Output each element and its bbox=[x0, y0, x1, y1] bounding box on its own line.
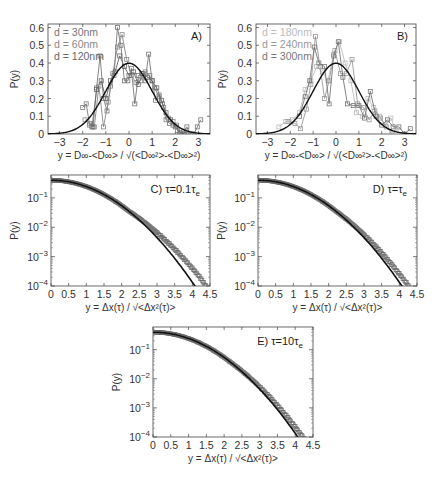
panel-label: E) τ=10τe bbox=[257, 335, 303, 350]
panel-e: 00.511.522.533.544.510−110−210−310−4P(y)… bbox=[111, 327, 320, 464]
panel-label: C) τ=0.1τe bbox=[150, 183, 200, 198]
x-axis-label: y = D∞-<D∞> / √(<D∞²>-<D∞>²) bbox=[265, 150, 408, 161]
y-tick-label: 0.2 bbox=[29, 93, 44, 105]
panel-label: A) bbox=[191, 30, 202, 42]
x-tick-label: 1 bbox=[356, 136, 362, 148]
x-tick-label: 4 bbox=[396, 288, 402, 300]
gaussian-curve bbox=[258, 180, 406, 293]
x-tick-label: −3 bbox=[54, 136, 66, 148]
y-tick-label: 10−3 bbox=[234, 249, 255, 263]
y-tick-label: 10−4 bbox=[129, 429, 150, 443]
y-tick-label: 10−1 bbox=[234, 190, 255, 204]
legend-entry: d = 180nm bbox=[262, 26, 312, 38]
data-series-line bbox=[299, 42, 410, 134]
plot-area bbox=[49, 178, 210, 292]
y-tick-label: 10−2 bbox=[234, 219, 255, 233]
x-tick-label: 0.5 bbox=[61, 288, 76, 300]
y-tick-label: 0.5 bbox=[29, 39, 44, 51]
y-tick-label: 0 bbox=[246, 128, 252, 140]
legend-entry: d = 240nm bbox=[262, 38, 312, 50]
y-tick-label: 10−4 bbox=[27, 278, 48, 292]
y-tick-label: 0.3 bbox=[29, 75, 44, 87]
x-tick-label: −1 bbox=[307, 136, 319, 148]
data-series-line bbox=[83, 28, 201, 135]
x-tick-label: 3 bbox=[154, 288, 160, 300]
legend-entry: d = 120nm bbox=[54, 50, 104, 62]
y-axis-label: P(y) bbox=[9, 221, 20, 239]
x-tick-label: 1 bbox=[290, 288, 296, 300]
panel-c: 00.511.522.533.544.510−110−210−310−4P(y)… bbox=[9, 175, 217, 313]
x-tick-label: 4.5 bbox=[203, 288, 218, 300]
x-axis-label: y = Δx(τ) / √<Δx²(τ)> bbox=[293, 302, 383, 313]
x-axis-label: y = Δx(τ) / √<Δx²(τ)> bbox=[86, 302, 176, 313]
gaussian-curve bbox=[51, 180, 199, 293]
x-tick-label: 0 bbox=[333, 136, 339, 148]
x-tick-label: 4.5 bbox=[410, 288, 425, 300]
plot-area bbox=[256, 178, 413, 293]
x-tick-label: 3 bbox=[361, 288, 367, 300]
x-axis-label: y = Δx(τ) / √<Δx²(τ)> bbox=[188, 453, 278, 464]
x-tick-label: −2 bbox=[284, 136, 296, 148]
x-tick-label: 1.5 bbox=[199, 439, 214, 451]
y-tick-label: 0.4 bbox=[29, 57, 44, 69]
legend-entry: d = 60nm bbox=[54, 38, 98, 50]
x-tick-label: −3 bbox=[261, 136, 273, 148]
panel-a: −3−2−1012300.10.20.30.40.50.6P(y)y = D∞-… bbox=[9, 22, 210, 161]
gaussian-curve bbox=[153, 332, 302, 444]
y-axis-label: P(y) bbox=[9, 70, 20, 88]
x-axis-label: y = D∞-<D∞> / √(<D∞²>-<D∞>²) bbox=[58, 150, 201, 161]
x-tick-label: 1 bbox=[83, 288, 89, 300]
panel-label: D) τ=τe bbox=[373, 183, 408, 198]
x-tick-label: 2 bbox=[221, 439, 227, 451]
x-tick-label: 2 bbox=[172, 136, 178, 148]
x-tick-label: 0 bbox=[126, 136, 132, 148]
x-tick-label: −2 bbox=[77, 136, 89, 148]
y-tick-label: 0.1 bbox=[29, 110, 44, 122]
x-tick-label: 3 bbox=[402, 136, 408, 148]
x-tick-label: 0 bbox=[255, 288, 261, 300]
y-tick-label: 0.2 bbox=[237, 93, 252, 105]
x-tick-label: 3.5 bbox=[270, 439, 285, 451]
y-tick-label: 10−3 bbox=[27, 249, 48, 263]
x-tick-label: 1 bbox=[149, 136, 155, 148]
x-tick-label: 1 bbox=[186, 439, 192, 451]
x-tick-label: 2.5 bbox=[132, 288, 147, 300]
y-tick-label: 0.3 bbox=[237, 75, 252, 87]
plot-area bbox=[151, 330, 306, 443]
x-tick-label: 1.5 bbox=[97, 288, 112, 300]
legend-entry: d = 300nm bbox=[262, 50, 312, 62]
figure-canvas: −3−2−1012300.10.20.30.40.50.6P(y)y = D∞-… bbox=[0, 0, 436, 484]
y-tick-label: 10−4 bbox=[234, 278, 255, 292]
y-tick-label: 10−1 bbox=[27, 190, 48, 204]
x-tick-label: 3 bbox=[257, 439, 263, 451]
x-tick-label: 2.5 bbox=[339, 288, 354, 300]
x-tick-label: −1 bbox=[100, 136, 112, 148]
y-axis-label: P(y) bbox=[217, 70, 228, 88]
y-tick-label: 0.5 bbox=[237, 39, 252, 51]
x-tick-label: 3 bbox=[196, 136, 202, 148]
y-tick-label: 10−2 bbox=[129, 371, 150, 385]
y-tick-label: 0.1 bbox=[237, 110, 252, 122]
x-tick-label: 3.5 bbox=[167, 288, 182, 300]
y-tick-label: 0 bbox=[38, 128, 44, 140]
panel-d: 00.511.522.533.544.510−110−210−310−4P(y)… bbox=[216, 175, 424, 313]
y-tick-label: 10−2 bbox=[27, 219, 48, 233]
y-tick-label: 0.4 bbox=[237, 57, 252, 69]
y-tick-label: 10−3 bbox=[129, 400, 150, 414]
x-tick-label: 0.5 bbox=[268, 288, 283, 300]
x-tick-label: 0.5 bbox=[163, 439, 178, 451]
y-tick-label: 10−1 bbox=[129, 342, 150, 356]
x-tick-label: 2 bbox=[119, 288, 125, 300]
panel-label: B) bbox=[397, 30, 408, 42]
x-tick-label: 3.5 bbox=[374, 288, 389, 300]
legend-entry: d = 30nm bbox=[54, 26, 98, 38]
gaussian-curve bbox=[256, 63, 416, 134]
y-tick-label: 0.6 bbox=[237, 22, 252, 34]
x-tick-label: 2 bbox=[379, 136, 385, 148]
x-tick-label: 2.5 bbox=[235, 439, 250, 451]
x-tick-label: 2 bbox=[326, 288, 332, 300]
y-tick-label: 0.6 bbox=[29, 22, 44, 34]
x-tick-label: 4 bbox=[189, 288, 195, 300]
y-axis-label: P(y) bbox=[111, 373, 122, 391]
panel-b: −3−2−1012300.10.20.30.40.50.6P(y)y = D∞-… bbox=[217, 22, 416, 161]
